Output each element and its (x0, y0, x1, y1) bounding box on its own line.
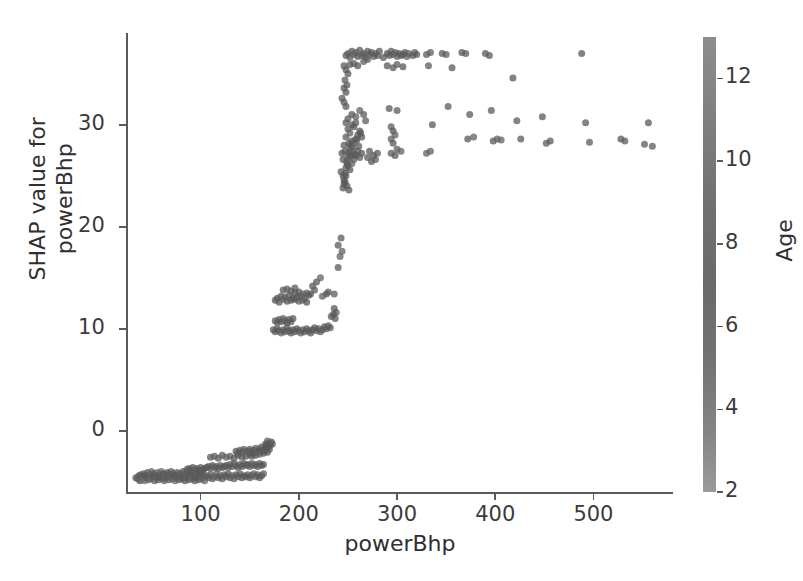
scatter-point (233, 471, 240, 478)
x-tick-mark (396, 493, 398, 500)
scatter-point (303, 299, 310, 306)
scatter-point (458, 49, 465, 56)
scatter-point (388, 136, 395, 143)
scatter-point (466, 111, 473, 118)
scatter-point (423, 150, 430, 157)
scatter-point (146, 471, 153, 478)
scatter-point (139, 473, 146, 480)
scatter-point (513, 117, 520, 124)
scatter-point (280, 326, 287, 333)
scatter-point (340, 185, 347, 192)
scatter-point (401, 49, 408, 56)
scatter-point (411, 49, 418, 56)
scatter-point (350, 123, 357, 130)
scatter-point (180, 472, 187, 479)
scatter-point (244, 471, 251, 478)
scatter-point (348, 48, 355, 55)
scatter-point (134, 475, 141, 482)
scatter-point (340, 172, 347, 179)
scatter-point (165, 471, 172, 478)
scatter-point (317, 328, 324, 335)
scatter-point (233, 448, 240, 455)
scatter-point (380, 54, 387, 61)
colorbar-tick-label: 4 (725, 395, 738, 419)
scatter-point (403, 53, 410, 60)
scatter-point (136, 477, 143, 484)
scatter-point (344, 70, 351, 77)
scatter-point (258, 444, 265, 451)
scatter-point (388, 123, 395, 130)
scatter-point (233, 462, 240, 469)
colorbar-tick-mark (717, 160, 723, 162)
scatter-point (205, 463, 212, 470)
scatter-point (319, 293, 326, 300)
scatter-point (346, 166, 353, 173)
scatter-point (170, 470, 177, 477)
scatter-point (498, 137, 505, 144)
scatter-point (311, 324, 318, 331)
scatter-point (384, 50, 391, 57)
scatter-point (287, 318, 294, 325)
scatter-point (348, 160, 355, 167)
scatter-point (167, 473, 174, 480)
scatter-point (207, 471, 214, 478)
scatter-point (342, 172, 349, 179)
scatter-point (339, 150, 346, 157)
scatter-point (352, 152, 359, 159)
scatter-point (227, 461, 234, 468)
scatter-point (268, 439, 275, 446)
scatter-point (238, 474, 245, 481)
scatter-point (344, 162, 351, 169)
scatter-point (342, 103, 349, 110)
scatter-point (201, 477, 208, 484)
scatter-point (155, 476, 162, 483)
scatter-point (219, 464, 226, 471)
scatter-point (246, 451, 253, 458)
scatter-point (185, 476, 192, 483)
scatter-point (323, 325, 330, 332)
scatter-point (295, 289, 302, 296)
scatter-point (390, 64, 397, 71)
scatter-point (350, 140, 357, 147)
scatter-point (425, 62, 432, 69)
scatter-point (343, 160, 350, 167)
scatter-point (374, 52, 381, 59)
scatter-point (217, 462, 224, 469)
scatter-point (394, 107, 401, 114)
y-axis-label-line-1: SHAP value for (25, 69, 52, 329)
scatter-point (346, 129, 353, 136)
x-axis-spine (126, 492, 673, 494)
scatter-point (231, 460, 238, 467)
scatter-point (309, 282, 316, 289)
scatter-point (341, 142, 348, 149)
scatter-point (223, 454, 230, 461)
scatter-point (370, 152, 377, 159)
scatter-point (225, 464, 232, 471)
scatter-point (221, 471, 228, 478)
scatter-point (509, 74, 516, 81)
scatter-point (199, 468, 206, 475)
scatter-point (362, 54, 369, 61)
scatter-point (305, 327, 312, 334)
scatter-point (252, 452, 259, 459)
scatter-point (299, 291, 306, 298)
scatter-point (168, 468, 175, 475)
x-tick-label: 400 (455, 502, 535, 526)
scatter-point (490, 138, 497, 145)
scatter-point (330, 311, 337, 318)
scatter-point (427, 49, 434, 56)
scatter-point (342, 170, 349, 177)
scatter-point (360, 50, 367, 57)
scatter-point (240, 472, 247, 479)
scatter-point (191, 466, 198, 473)
scatter-point (175, 471, 182, 478)
scatter-point (153, 474, 160, 481)
scatter-point (284, 319, 291, 326)
scatter-point (346, 61, 353, 68)
scatter-point (219, 452, 226, 459)
scatter-point (176, 476, 183, 483)
x-tick-label: 100 (161, 502, 241, 526)
scatter-point (270, 326, 277, 333)
scatter-point (182, 474, 189, 481)
scatter-point (344, 50, 351, 57)
